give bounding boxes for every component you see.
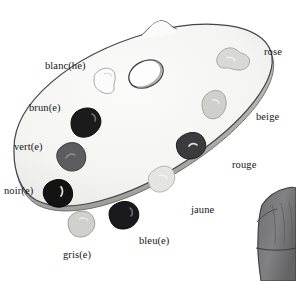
label-vert: vert(e) (14, 142, 43, 153)
label-jaune: jaune (191, 205, 214, 216)
grey-garment-sleeve (256, 187, 296, 281)
label-rouge: rouge (232, 160, 256, 171)
label-brun: brun(e) (29, 103, 61, 114)
label-beige: beige (256, 112, 279, 123)
label-gris: gris(e) (63, 250, 91, 261)
blob-vert (57, 143, 86, 171)
blob-gris (68, 211, 95, 237)
label-blanc: blanc(he) (45, 61, 86, 72)
blob-noir (43, 180, 72, 208)
label-noir: noir(e) (4, 186, 33, 197)
label-rose: rose (264, 47, 282, 58)
blob-rouge (176, 132, 205, 159)
illustration-canvas: blanc(he) brun(e) vert(e) noir(e) gris(e… (0, 0, 296, 281)
label-bleu: bleu(e) (139, 236, 169, 247)
blob-bleu (109, 201, 139, 229)
